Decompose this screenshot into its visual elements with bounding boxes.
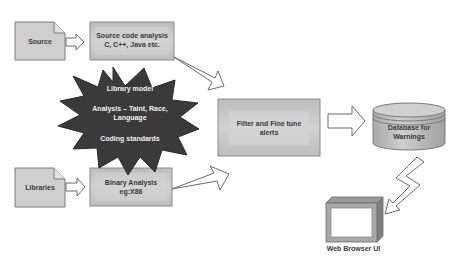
star-language: Language	[90, 113, 170, 122]
web-browser-label: Web Browser UI	[316, 244, 391, 253]
source-analysis-title: Source code analysis	[90, 31, 174, 40]
database-subtitle: Warnings	[373, 132, 445, 141]
star-library-model: Library model	[90, 84, 170, 93]
binary-analysis-node: Binary Analysis eg:X86	[90, 178, 172, 196]
filter-title: Filter and Fine tune	[218, 119, 320, 128]
database-title: Database for	[373, 123, 445, 132]
monitor-icon	[326, 197, 383, 242]
libraries-label: Libraries	[15, 183, 65, 192]
star-analysis-types: Analysis – Taint, Race,	[80, 104, 180, 113]
wedge-arrow-icon	[172, 166, 229, 190]
source-analysis-node: Source code analysis C, C++, Java etc.	[90, 31, 174, 49]
wedge-arrow-icon	[174, 57, 224, 90]
binary-analysis-example: eg:X86	[90, 187, 172, 196]
star-coding-standards: Coding standards	[85, 134, 175, 143]
block-arrow-icon	[66, 34, 84, 50]
filter-node: Filter and Fine tune alerts	[218, 119, 320, 137]
binary-analysis-title: Binary Analysis	[90, 178, 172, 187]
block-arrow-icon	[66, 178, 85, 196]
database-node: Database for Warnings	[373, 123, 445, 141]
filter-subtitle: alerts	[218, 128, 320, 137]
source-analysis-languages: C, C++, Java etc.	[90, 40, 174, 49]
block-arrow-icon	[328, 106, 365, 136]
lightning-arrow-icon	[385, 157, 424, 214]
source-label: Source	[15, 37, 65, 46]
